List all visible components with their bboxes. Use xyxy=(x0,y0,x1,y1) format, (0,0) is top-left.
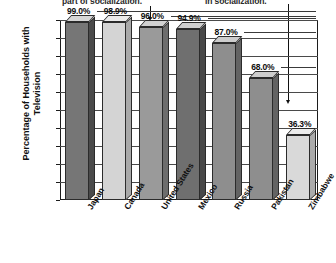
value-label-mexico: 94.9% xyxy=(178,13,201,23)
y-axis-tick xyxy=(56,200,60,201)
value-label-canada: 98.9% xyxy=(104,6,127,16)
y-axis-tick xyxy=(56,74,60,75)
bar-japan xyxy=(65,22,89,200)
bar-russia xyxy=(212,43,236,200)
value-label-united-states: 96.0% xyxy=(141,11,164,21)
bar-side-face xyxy=(89,16,95,200)
value-label-pakistan: 68.0% xyxy=(251,62,274,72)
bar-canada xyxy=(102,22,126,200)
value-label-russia: 87.0% xyxy=(214,27,237,37)
bar-front-face xyxy=(212,43,236,200)
y-axis-tick xyxy=(56,128,60,129)
bar-front-face xyxy=(102,22,126,200)
y-axis-tick xyxy=(56,38,60,39)
bar-front-face xyxy=(249,78,273,200)
value-label-japan: 99.0% xyxy=(67,6,90,16)
bar-side-face xyxy=(273,72,279,200)
bar-pakistan xyxy=(249,78,273,200)
bar-side-face xyxy=(200,24,206,200)
y-axis-tick xyxy=(56,56,60,57)
annotation-caption-right: in socialization. xyxy=(205,0,267,6)
bar-front-face xyxy=(65,22,89,200)
y-axis-tick xyxy=(56,164,60,165)
y-axis-tick xyxy=(56,146,60,147)
value-label-zimbabwe: 36.3% xyxy=(288,119,311,129)
value-label-leader-line xyxy=(208,18,316,19)
value-label-leader-line xyxy=(244,32,316,33)
bar-side-face xyxy=(163,22,169,200)
bar-front-face xyxy=(139,27,163,200)
y-axis-tick xyxy=(56,20,60,21)
bar-united-states xyxy=(139,27,163,200)
y-axis-tick xyxy=(56,182,60,183)
bar-side-face xyxy=(126,17,132,200)
bar-side-face xyxy=(236,38,242,200)
value-label-leader-line xyxy=(281,67,316,68)
y-axis-tick xyxy=(56,92,60,93)
y-axis-tick xyxy=(56,110,60,111)
y-axis-title: Percentage of Households with Television xyxy=(21,19,42,169)
